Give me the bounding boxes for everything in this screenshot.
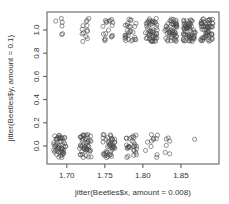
data-point xyxy=(101,140,105,144)
x-axis: 1.701.751.801.85 xyxy=(59,164,189,180)
data-point xyxy=(61,32,65,36)
data-point xyxy=(155,153,159,157)
y-tick-label: 0.6 xyxy=(32,70,41,82)
data-point xyxy=(80,32,84,36)
x-axis-label: jitter(Beetles$x, amount = 0.008) xyxy=(74,188,191,197)
data-point xyxy=(164,143,168,147)
data-point xyxy=(106,28,110,32)
y-tick-label: 0.0 xyxy=(32,140,41,152)
y-tick-label: 0.8 xyxy=(32,47,41,59)
x-tick-label: 1.85 xyxy=(173,171,189,180)
x-tick-label: 1.75 xyxy=(97,171,113,180)
y-tick-label: 0.2 xyxy=(32,117,41,129)
data-point xyxy=(85,24,89,28)
x-tick-label: 1.80 xyxy=(135,171,151,180)
scatter-plot: 1.701.751.801.85 0.00.20.40.60.81.0 jitt… xyxy=(0,0,229,204)
data-point xyxy=(154,16,158,20)
y-tick-label: 1.0 xyxy=(32,24,41,36)
data-point xyxy=(124,136,128,140)
data-point xyxy=(81,31,85,35)
points-layer xyxy=(52,16,215,159)
data-point xyxy=(110,23,114,27)
data-point xyxy=(59,16,63,20)
y-axis-label: jitter(Beetles$y, amount = 0.1) xyxy=(6,34,15,142)
data-point xyxy=(163,150,167,154)
data-point xyxy=(149,133,153,137)
data-point xyxy=(168,152,172,156)
data-point xyxy=(143,148,147,152)
data-point xyxy=(163,28,167,32)
data-point xyxy=(81,39,85,43)
data-point xyxy=(89,155,93,159)
data-point xyxy=(54,19,58,23)
y-tick-label: 0.4 xyxy=(32,93,41,105)
data-point xyxy=(193,137,197,141)
data-point xyxy=(101,24,105,28)
y-axis: 0.00.20.40.60.81.0 xyxy=(32,24,47,152)
x-tick-label: 1.70 xyxy=(59,171,75,180)
data-point xyxy=(145,140,149,144)
data-point xyxy=(149,144,153,148)
